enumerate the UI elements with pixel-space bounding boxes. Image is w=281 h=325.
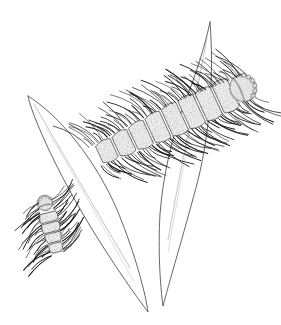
head-tubercle (37, 200, 40, 203)
head-tubercle (40, 196, 43, 199)
head-tubercle (49, 197, 52, 200)
head-tubercle (44, 195, 47, 198)
caterpillar-on-leaves-illustration (0, 0, 281, 325)
illustration-canvas (0, 0, 281, 325)
